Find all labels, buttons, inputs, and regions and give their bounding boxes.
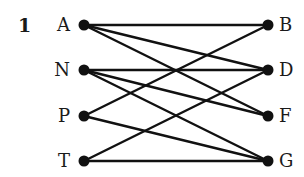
label-p: P	[58, 105, 70, 126]
label-f: F	[279, 105, 292, 126]
label-b: B	[279, 14, 292, 35]
node-a	[79, 20, 90, 31]
label-a: A	[56, 14, 71, 35]
label-n: N	[54, 59, 70, 80]
label-g: G	[279, 150, 293, 171]
node-b	[263, 20, 274, 31]
label-t: T	[58, 150, 70, 171]
bipartite-graph: 1 ANPTBDFG	[0, 0, 304, 177]
edge-p-g	[84, 116, 268, 161]
node-d	[263, 65, 274, 76]
edge-n-f	[84, 70, 268, 116]
edge-a-d	[84, 25, 268, 70]
node-p	[79, 111, 90, 122]
node-f	[263, 111, 274, 122]
edges	[84, 25, 268, 161]
node-n	[79, 65, 90, 76]
label-d: D	[279, 59, 293, 80]
question-number: 1	[18, 14, 31, 36]
node-t	[79, 156, 90, 167]
node-g	[263, 156, 274, 167]
